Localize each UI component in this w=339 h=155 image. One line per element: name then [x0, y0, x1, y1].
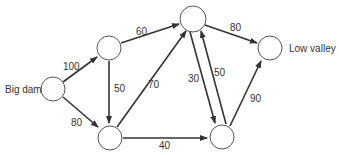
capacity-a-b: 50: [114, 83, 126, 94]
capacity-a-c: 60: [136, 26, 148, 37]
network-diagram: Big dam Low valley 100 80 60 50 70 40 30…: [0, 0, 339, 155]
node-big-dam: [41, 77, 65, 101]
node-b: [98, 126, 122, 150]
node-c: [180, 6, 206, 32]
label-low-valley: Low valley: [289, 43, 336, 54]
capacity-b-c: 70: [148, 79, 160, 90]
label-big-dam: Big dam: [5, 84, 42, 95]
capacity-bigdam-a: 100: [63, 61, 80, 72]
node-low-valley: [258, 36, 282, 60]
capacity-bigdam-b: 80: [71, 117, 83, 128]
capacity-d-lowvalley: 90: [250, 93, 262, 104]
capacity-c-d: 30: [188, 73, 200, 84]
node-a: [97, 36, 121, 60]
node-d: [210, 125, 234, 149]
capacity-d-c: 50: [214, 67, 226, 78]
capacity-b-d: 40: [159, 140, 171, 151]
edge-a-c: [121, 24, 179, 43]
capacity-c-lowvalley: 80: [230, 22, 242, 33]
